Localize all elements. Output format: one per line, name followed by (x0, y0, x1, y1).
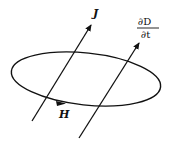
label-h: H (58, 108, 70, 121)
ampere-maxwell-diagram: J H ∂D ∂t (0, 0, 173, 148)
label-dd-numerator: ∂D (138, 16, 151, 27)
label-j: J (91, 7, 99, 20)
label-dt-denominator: ∂t (141, 29, 150, 40)
current-j-arrow (32, 25, 91, 121)
closed-loop-ellipse (9, 45, 164, 112)
displacement-current-arrow (79, 43, 139, 138)
